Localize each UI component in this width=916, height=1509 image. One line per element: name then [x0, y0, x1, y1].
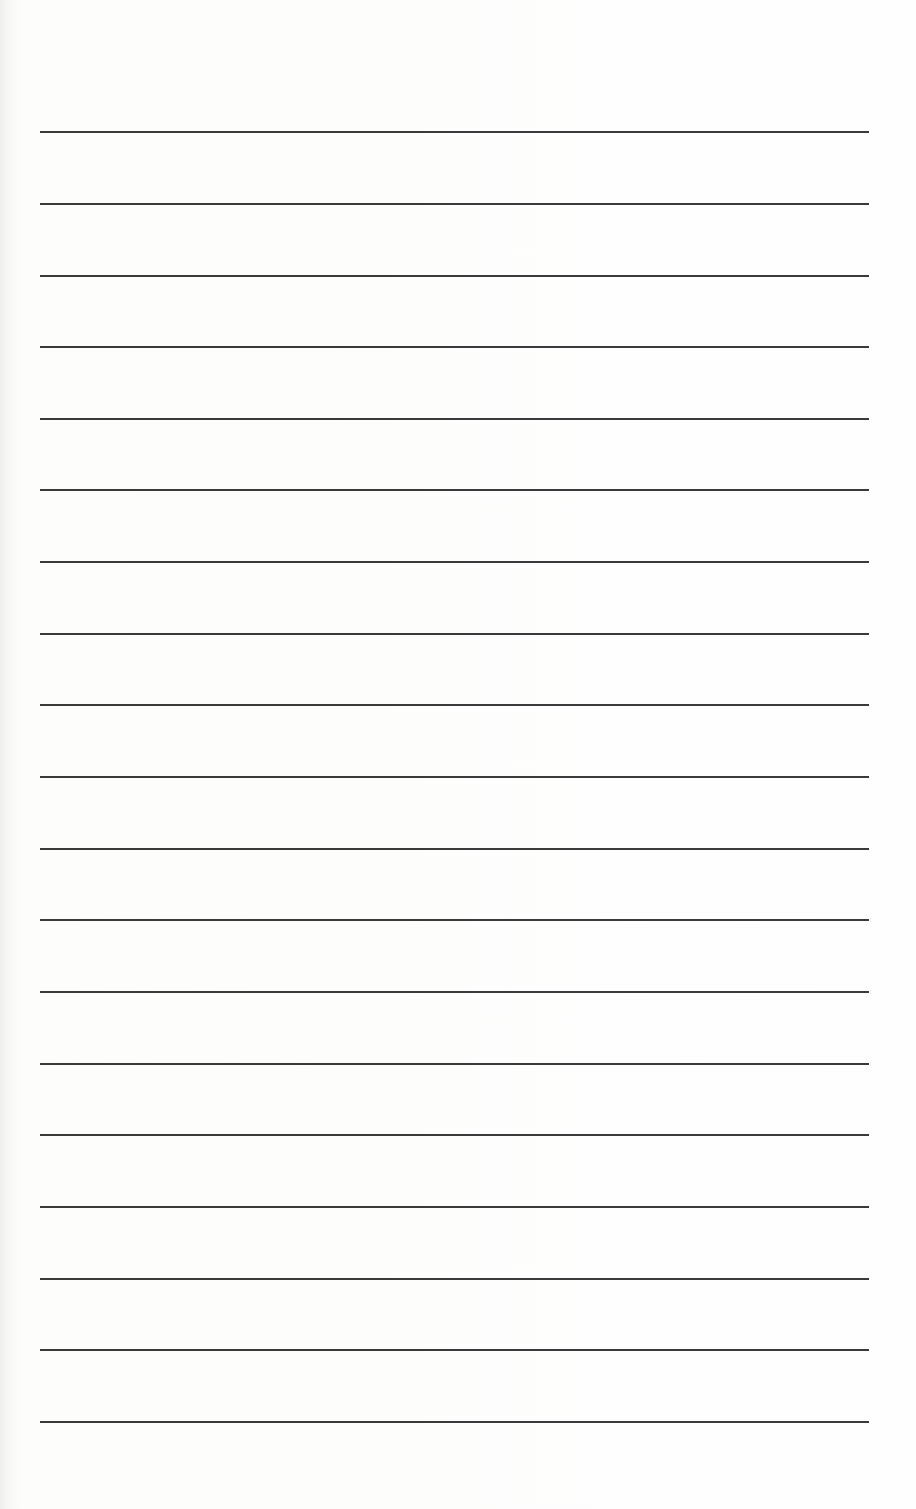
ruled-line [40, 848, 869, 850]
ruled-line [40, 991, 869, 993]
ruled-line [40, 919, 869, 921]
ruled-line [40, 1063, 869, 1065]
ruled-line [40, 346, 869, 348]
ruled-line [40, 1206, 869, 1208]
ruled-line [40, 704, 869, 706]
ruled-line [40, 633, 869, 635]
ruled-line [40, 203, 869, 205]
ruled-line [40, 776, 869, 778]
ruled-line [40, 1421, 869, 1423]
lined-paper-page [0, 0, 916, 1509]
ruled-line [40, 1349, 869, 1351]
ruled-line [40, 418, 869, 420]
ruled-line [40, 131, 869, 133]
ruled-line [40, 1134, 869, 1136]
ruled-line [40, 489, 869, 491]
ruled-line [40, 1278, 869, 1280]
ruled-line [40, 275, 869, 277]
ruled-line [40, 561, 869, 563]
